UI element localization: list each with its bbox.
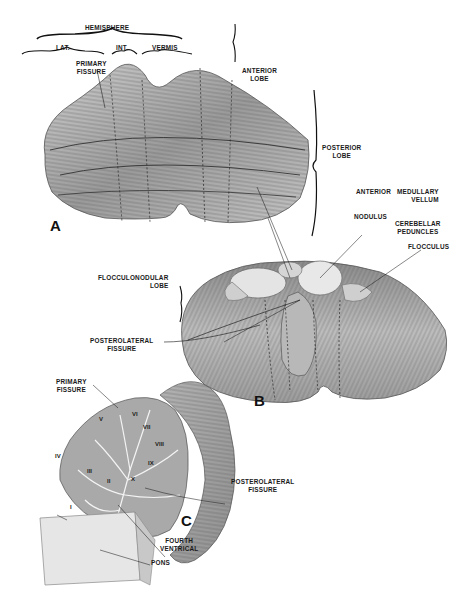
posterolateral-fissure-label-b: POSTEROLATERAL FISSURE — [90, 337, 153, 353]
cerebellum-figure: HEMISPHERE LAT. INT. VERMIS PRIMARY FISS… — [0, 0, 473, 594]
panel-b-cerebellum-ventral — [182, 261, 447, 403]
lobule-x: X — [131, 476, 135, 482]
lobule-ii: II — [107, 478, 110, 484]
lobule-v: V — [99, 416, 103, 422]
primary-fissure-label-c: PRIMARY FISSURE — [56, 378, 87, 394]
lateral-label: LAT. — [56, 44, 70, 52]
anterior-lobe-label: ANTERIOR LOBE — [242, 67, 277, 83]
vermis-label: VERMIS — [152, 44, 178, 52]
fourth-ventrical-label: FOURTH VENTRICAL — [160, 537, 198, 553]
panel-label-a: A — [50, 217, 61, 234]
panel-a-cerebellum-dorsal — [44, 64, 309, 222]
cerebellar-peduncles-label: CEREBELLAR PEDUNCLES — [395, 220, 441, 236]
lobule-iv: IV — [55, 453, 61, 459]
lobule-i: I — [70, 504, 72, 510]
posterolateral-fissure-label-c: POSTEROLATERAL FISSURE — [231, 478, 294, 494]
posterior-lobe-label: POSTERIOR LOBE — [322, 144, 361, 160]
anterior-label: ANTERIOR — [356, 188, 391, 196]
lobule-vi: VI — [132, 411, 138, 417]
flocculus-label: FLOCCULUS — [408, 243, 449, 251]
pons-label: PONS — [151, 559, 170, 567]
lobule-iii: III — [87, 468, 92, 474]
medullary-vellum-label: MEDULLARY VELLUM — [397, 188, 439, 204]
panel-label-b: B — [254, 392, 265, 409]
panel-label-c: C — [181, 512, 192, 529]
primary-fissure-label-a: PRIMARY FISSURE — [76, 60, 107, 76]
lobule-vii: VII — [143, 424, 150, 430]
hemisphere-label: HEMISPHERE — [85, 24, 129, 32]
lobule-viii: VIII — [155, 441, 164, 447]
nodulus-label: NODULUS — [354, 213, 387, 221]
intermediate-label: INT. — [116, 44, 128, 52]
lobule-ix: IX — [148, 460, 154, 466]
flocculonodular-lobe-label: FLOCCULONODULAR LOBE — [98, 274, 168, 290]
